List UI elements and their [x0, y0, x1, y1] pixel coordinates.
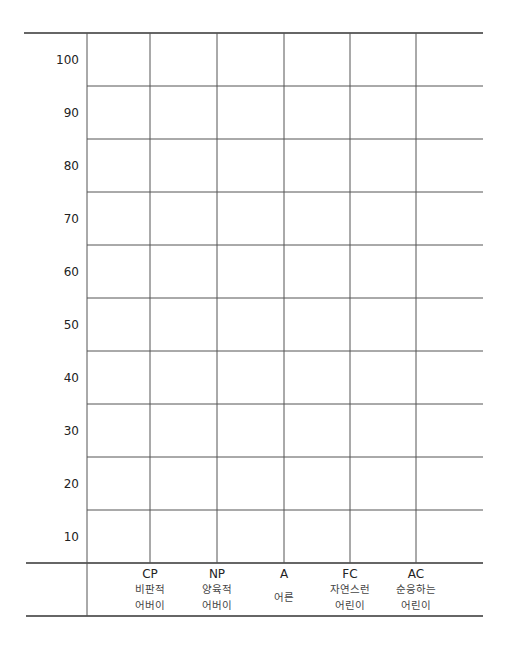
y-tick-label: 40 [64, 371, 79, 385]
category-sub-label: 어린이 [401, 599, 431, 611]
y-tick-label: 30 [64, 424, 79, 438]
y-tick-label: 70 [64, 212, 79, 226]
y-tick-label: 80 [64, 159, 79, 173]
category-code-label: AC [408, 567, 424, 581]
category-sub-label: 양육적 [202, 583, 232, 595]
category-code-label: CP [142, 567, 158, 581]
category-code-label: A [280, 567, 289, 581]
y-tick-label: 50 [64, 318, 79, 332]
y-axis-ticks: 100908070605040302010 [56, 53, 79, 544]
grid [24, 33, 483, 616]
category-sub-label: 어버이 [202, 599, 232, 611]
category-sub-label: 어버이 [135, 599, 165, 611]
category-sub-label: 순응하는 [396, 583, 436, 595]
y-tick-label: 100 [56, 53, 79, 67]
category-code-label: FC [342, 567, 357, 581]
egogram-chart: 100908070605040302010 CP비판적어버이NP양육적어버이A어… [0, 0, 510, 656]
category-sub-label: 비판적 [135, 583, 165, 595]
y-tick-label: 60 [64, 265, 79, 279]
y-tick-label: 10 [64, 530, 79, 544]
category-code-label: NP [209, 567, 225, 581]
y-tick-label: 20 [64, 477, 79, 491]
category-sub-label: 어린이 [335, 599, 365, 611]
y-tick-label: 90 [64, 106, 79, 120]
category-sub-label: 어른 [274, 591, 294, 603]
x-axis-categories: CP비판적어버이NP양육적어버이A어른FC자연스런어린이AC순응하는어린이 [135, 567, 436, 611]
category-sub-label: 자연스런 [330, 583, 370, 595]
